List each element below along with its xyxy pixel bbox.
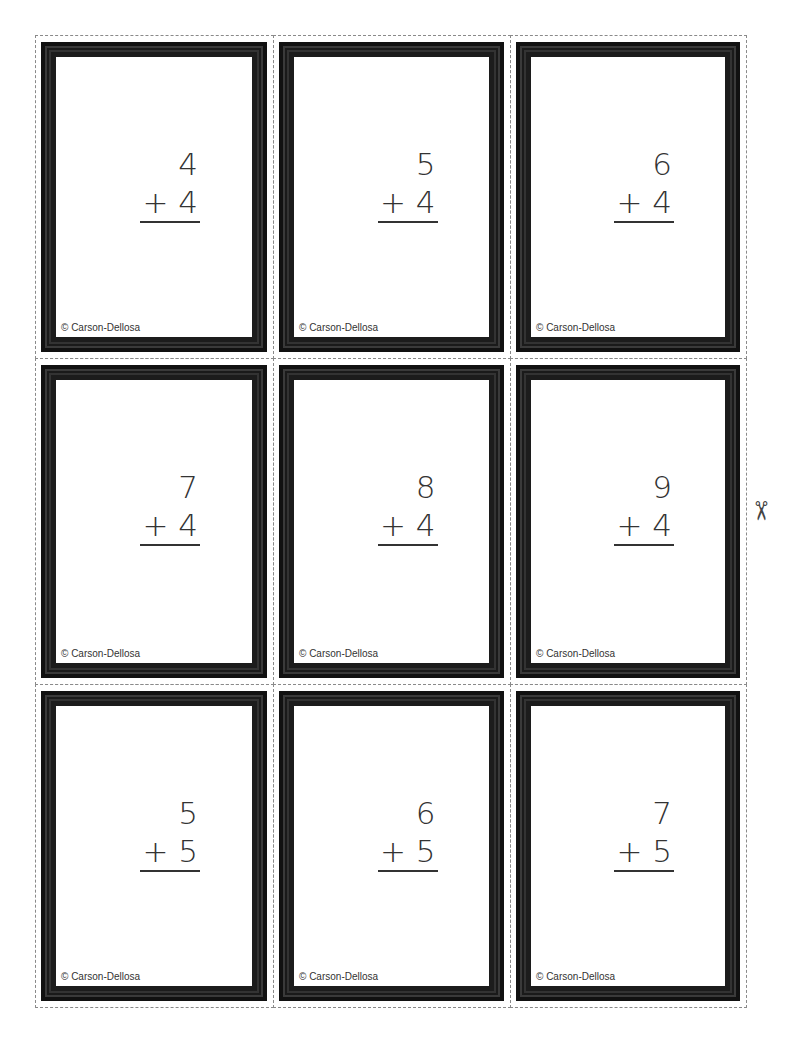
flash-card: 4 + 4 © Carson-Dellosa (35, 35, 274, 359)
addition-problem: 5 + 5 (140, 794, 200, 872)
card-face: 7 + 5 © Carson-Dellosa (531, 706, 725, 986)
flash-card-sheet: 4 + 4 © Carson-Dellosa 5 + 4 © Carson-De… (35, 35, 747, 1008)
addend-top: 8 (378, 468, 438, 506)
card-border: 5 + 5 © Carson-Dellosa (41, 691, 267, 1001)
copyright-text: © Carson-Dellosa (299, 322, 378, 333)
card-border: 9 + 4 © Carson-Dellosa (516, 365, 740, 678)
addition-problem: 5 + 4 (378, 145, 438, 223)
scissors-icon: ✂ (748, 500, 774, 522)
card-border: 7 + 4 © Carson-Dellosa (41, 365, 267, 678)
card-border: 6 + 4 © Carson-Dellosa (516, 42, 740, 352)
copyright-text: © Carson-Dellosa (299, 648, 378, 659)
addend-top: 4 (140, 145, 200, 183)
addend-bottom: + 4 (140, 183, 200, 223)
copyright-text: © Carson-Dellosa (61, 322, 140, 333)
addend-top: 5 (378, 145, 438, 183)
card-face: 6 + 4 © Carson-Dellosa (531, 57, 725, 337)
card-border: 8 + 4 © Carson-Dellosa (279, 365, 504, 678)
addend-top: 9 (614, 468, 674, 506)
flash-card: 8 + 4 © Carson-Dellosa (273, 358, 511, 685)
flash-card: 9 + 4 © Carson-Dellosa (510, 358, 747, 685)
copyright-text: © Carson-Dellosa (61, 971, 140, 982)
card-face: 7 + 4 © Carson-Dellosa (56, 380, 252, 663)
card-border: 4 + 4 © Carson-Dellosa (41, 42, 267, 352)
addend-bottom: + 5 (378, 832, 438, 872)
addend-bottom: + 5 (614, 832, 674, 872)
addend-top: 7 (614, 794, 674, 832)
card-border: 5 + 4 © Carson-Dellosa (279, 42, 504, 352)
addend-top: 6 (378, 794, 438, 832)
addition-problem: 8 + 4 (378, 468, 438, 546)
flash-card: 5 + 5 © Carson-Dellosa (35, 684, 274, 1008)
addition-problem: 6 + 5 (378, 794, 438, 872)
addition-problem: 7 + 4 (140, 468, 200, 546)
flash-card: 7 + 5 © Carson-Dellosa (510, 684, 747, 1008)
addend-bottom: + 4 (140, 506, 200, 546)
flash-card: 6 + 4 © Carson-Dellosa (510, 35, 747, 359)
copyright-text: © Carson-Dellosa (536, 322, 615, 333)
addend-bottom: + 4 (378, 183, 438, 223)
card-border: 6 + 5 © Carson-Dellosa (279, 691, 504, 1001)
addend-bottom: + 4 (614, 183, 674, 223)
addend-top: 7 (140, 468, 200, 506)
addition-problem: 4 + 4 (140, 145, 200, 223)
card-border: 7 + 5 © Carson-Dellosa (516, 691, 740, 1001)
copyright-text: © Carson-Dellosa (61, 648, 140, 659)
card-face: 9 + 4 © Carson-Dellosa (531, 380, 725, 663)
addition-problem: 9 + 4 (614, 468, 674, 546)
flash-card: 5 + 4 © Carson-Dellosa (273, 35, 511, 359)
copyright-text: © Carson-Dellosa (536, 648, 615, 659)
addend-top: 5 (140, 794, 200, 832)
card-face: 4 + 4 © Carson-Dellosa (56, 57, 252, 337)
addend-bottom: + 4 (378, 506, 438, 546)
addend-bottom: + 5 (140, 832, 200, 872)
flash-card: 6 + 5 © Carson-Dellosa (273, 684, 511, 1008)
card-face: 5 + 5 © Carson-Dellosa (56, 706, 252, 986)
addend-top: 6 (614, 145, 674, 183)
copyright-text: © Carson-Dellosa (299, 971, 378, 982)
card-face: 5 + 4 © Carson-Dellosa (294, 57, 489, 337)
card-face: 6 + 5 © Carson-Dellosa (294, 706, 489, 986)
card-face: 8 + 4 © Carson-Dellosa (294, 380, 489, 663)
addend-bottom: + 4 (614, 506, 674, 546)
flash-card: 7 + 4 © Carson-Dellosa (35, 358, 274, 685)
addition-problem: 7 + 5 (614, 794, 674, 872)
copyright-text: © Carson-Dellosa (536, 971, 615, 982)
addition-problem: 6 + 4 (614, 145, 674, 223)
